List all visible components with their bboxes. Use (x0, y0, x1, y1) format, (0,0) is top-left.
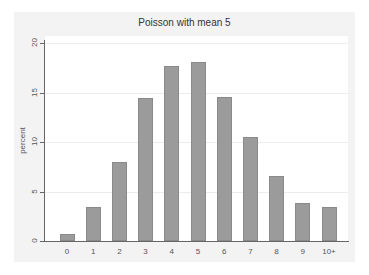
bar-6 (217, 97, 232, 241)
bar-1 (86, 207, 101, 241)
bar-8 (269, 176, 284, 241)
x-tick-label: 5 (188, 247, 208, 256)
y-axis-label: percent (18, 121, 27, 161)
x-tick-label: 6 (214, 247, 234, 256)
y-tick-label: 0 (30, 233, 39, 249)
y-tick-label: 15 (30, 85, 39, 101)
x-tick-label: 10+ (319, 247, 339, 256)
y-tick (40, 43, 44, 44)
x-tick-label: 7 (240, 247, 260, 256)
bar-3 (138, 98, 153, 241)
y-tick-label: 20 (30, 35, 39, 51)
bar-5 (191, 62, 206, 241)
bar-10plus (322, 207, 337, 241)
x-tick-label: 4 (162, 247, 182, 256)
bar-0 (60, 234, 75, 241)
y-tick (40, 192, 44, 193)
gridline (45, 43, 348, 44)
y-tick (40, 93, 44, 94)
x-tick-label: 9 (293, 247, 313, 256)
bar-7 (243, 137, 258, 241)
y-tick-label: 10 (30, 134, 39, 150)
x-axis-line (44, 241, 349, 242)
x-tick-label: 1 (83, 247, 103, 256)
bar-4 (164, 66, 179, 241)
y-axis-line (44, 40, 45, 242)
y-tick (40, 142, 44, 143)
x-tick-label: 2 (109, 247, 129, 256)
y-tick (40, 241, 44, 242)
x-tick-label: 3 (136, 247, 156, 256)
chart-title: Poisson with mean 5 (0, 17, 369, 28)
bar-9 (295, 203, 310, 241)
y-tick-label: 5 (30, 184, 39, 200)
x-tick-label: 8 (267, 247, 287, 256)
x-tick-label: 0 (57, 247, 77, 256)
bar-2 (112, 162, 127, 241)
